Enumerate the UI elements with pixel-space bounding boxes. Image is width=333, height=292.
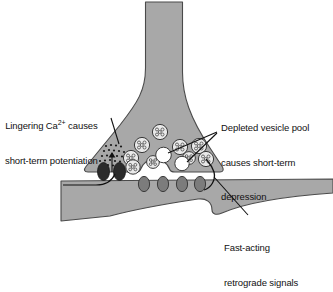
- receptor: [176, 176, 187, 191]
- label-potentiation-line2: short-term potentiation: [5, 155, 98, 167]
- label-depression-line2: causes short-term: [221, 157, 309, 169]
- receptor: [194, 176, 205, 191]
- label-potentiation-line1-pre: Lingering Ca: [5, 120, 58, 131]
- label-potentiation-line1: Lingering Ca2+ causes: [5, 120, 98, 132]
- label-potentiation-line1-post: causes: [66, 120, 98, 131]
- receptor: [157, 176, 168, 191]
- vesicle-filled: [126, 160, 140, 174]
- vesicle-empty: [156, 147, 172, 163]
- receptor: [138, 176, 149, 191]
- label-retrograde-line2: retrograde signals: [224, 277, 298, 289]
- label-depression-line1: Depleted vesicle pool: [221, 122, 309, 134]
- vesicle-empty: [175, 156, 189, 170]
- label-potentiation: Lingering Ca2+ causes short-term potenti…: [5, 97, 98, 178]
- vesicle-filled: [152, 124, 167, 139]
- calcium-channel: [114, 163, 126, 181]
- calcium-channel: [98, 163, 110, 181]
- label-depression-line3: depression: [221, 191, 309, 203]
- label-retrograde: Fast-acting retrograde signals: [224, 219, 298, 292]
- label-depression: Depleted vesicle pool causes short-term …: [221, 99, 309, 214]
- charge-superscript: 2+: [58, 119, 66, 126]
- label-retrograde-line1: Fast-acting: [224, 242, 298, 254]
- vesicle-filled: [134, 137, 149, 152]
